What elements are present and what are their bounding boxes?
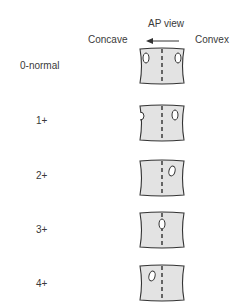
vertebra-grade-4 — [137, 264, 187, 302]
vertebra-grade-0 — [137, 47, 187, 85]
vertebra-grade-3 — [137, 211, 187, 249]
grade-label-2: 2+ — [36, 170, 47, 181]
vertebra-grade-2 — [137, 159, 187, 197]
concave-label: Concave — [88, 34, 127, 45]
convex-pedicle-icon — [159, 219, 165, 229]
direction-arrow-icon — [146, 37, 180, 45]
convex-pedicle-icon — [172, 110, 178, 120]
header-title: AP view — [148, 18, 184, 29]
grade-label-4: 4+ — [36, 278, 47, 289]
concave-pedicle-icon — [140, 112, 144, 120]
grade-label-3: 3+ — [36, 224, 47, 235]
convex-label: Convex — [195, 34, 229, 45]
vertebra-grade-1 — [137, 104, 187, 142]
grade-label-1: 1+ — [36, 115, 47, 126]
grade-label-0: 0-normal — [20, 60, 59, 71]
convex-pedicle-icon — [175, 53, 181, 63]
concave-pedicle-icon — [143, 53, 149, 63]
